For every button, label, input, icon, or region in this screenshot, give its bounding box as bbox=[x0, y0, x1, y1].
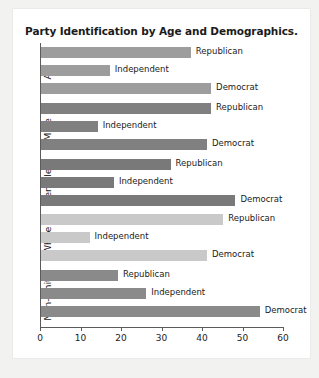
bar-democrat bbox=[41, 195, 235, 206]
bar-label: Democrat bbox=[265, 305, 307, 315]
x-tick-label: 50 bbox=[237, 333, 248, 343]
bar-label: Democrat bbox=[212, 249, 254, 259]
bar-independent bbox=[41, 121, 98, 132]
bar-row: Democrat bbox=[41, 83, 296, 94]
bar-row: Republican bbox=[41, 159, 296, 170]
bar-row: Independent bbox=[41, 288, 296, 299]
bar-label: Independent bbox=[151, 287, 205, 297]
bar-group-white: WhiteRepublicanIndependentDemocrat bbox=[41, 214, 296, 268]
bar-label: Democrat bbox=[240, 194, 282, 204]
bar-row: Independent bbox=[41, 177, 296, 188]
x-tick-label: 0 bbox=[37, 333, 43, 343]
bar-democrat bbox=[41, 306, 260, 317]
x-tick-label: 10 bbox=[75, 333, 86, 343]
bar-republican bbox=[41, 47, 191, 58]
bar-label: Republican bbox=[176, 158, 223, 168]
bar-label: Independent bbox=[115, 64, 169, 74]
bar-independent bbox=[41, 232, 90, 243]
bar-row: Independent bbox=[41, 232, 296, 243]
bar-row: Democrat bbox=[41, 139, 296, 150]
x-tick-label: 30 bbox=[156, 333, 167, 343]
x-tick-mark bbox=[162, 327, 163, 331]
bar-row: Democrat bbox=[41, 250, 296, 261]
x-tick-label: 40 bbox=[196, 333, 207, 343]
x-tick-mark bbox=[81, 327, 82, 331]
plot-area: 0102030405060 AllRepublicanIndependentDe… bbox=[40, 43, 296, 327]
bar-label: Independent bbox=[103, 120, 157, 130]
page-background: Party Identification by Age and Demograp… bbox=[0, 0, 319, 378]
bar-democrat bbox=[41, 139, 207, 150]
bar-group-non-white: Non-whiteRepublicanIndependentDemocrat bbox=[41, 270, 296, 324]
bar-label: Democrat bbox=[216, 82, 258, 92]
bar-label: Democrat bbox=[212, 138, 254, 148]
bar-row: Democrat bbox=[41, 195, 296, 206]
bar-democrat bbox=[41, 83, 211, 94]
x-tick-mark bbox=[243, 327, 244, 331]
x-tick-mark bbox=[283, 327, 284, 331]
bar-row: Independent bbox=[41, 121, 296, 132]
x-tick-label: 60 bbox=[277, 333, 288, 343]
x-tick-label: 20 bbox=[115, 333, 126, 343]
chart-title: Party Identification by Age and Demograp… bbox=[13, 25, 310, 37]
bar-democrat bbox=[41, 250, 207, 261]
bar-label: Republican bbox=[216, 102, 263, 112]
bar-row: Democrat bbox=[41, 306, 296, 317]
bar-group-male: MaleRepublicanIndependentDemocrat bbox=[41, 103, 296, 157]
bar-independent bbox=[41, 65, 110, 76]
bar-group-all: AllRepublicanIndependentDemocrat bbox=[41, 47, 296, 101]
bar-independent bbox=[41, 177, 114, 188]
bar-republican bbox=[41, 214, 223, 225]
bar-label: Republican bbox=[228, 213, 275, 223]
bar-row: Independent bbox=[41, 65, 296, 76]
bar-row: Republican bbox=[41, 47, 296, 58]
bar-group-female: FemaleRepublicanIndependentDemocrat bbox=[41, 159, 296, 213]
chart-card: Party Identification by Age and Demograp… bbox=[13, 9, 310, 358]
bar-row: Republican bbox=[41, 103, 296, 114]
x-tick-mark bbox=[121, 327, 122, 331]
bar-row: Republican bbox=[41, 214, 296, 225]
bar-label: Independent bbox=[95, 231, 149, 241]
bar-independent bbox=[41, 288, 146, 299]
bar-republican bbox=[41, 270, 118, 281]
bar-republican bbox=[41, 103, 211, 114]
x-tick-mark bbox=[40, 327, 41, 331]
bar-republican bbox=[41, 159, 171, 170]
x-tick-mark bbox=[202, 327, 203, 331]
bar-row: Republican bbox=[41, 270, 296, 281]
bar-label: Independent bbox=[119, 176, 173, 186]
bar-label: Republican bbox=[196, 46, 243, 56]
bar-label: Republican bbox=[123, 269, 170, 279]
